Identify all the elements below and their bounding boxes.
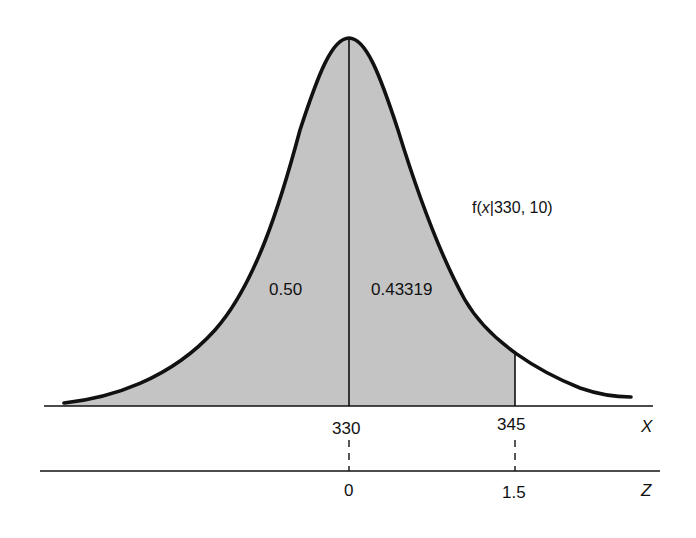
area-right-label: 0.43319 — [371, 281, 432, 298]
normal-curve-figure — [0, 0, 696, 538]
curve-label: f(x|330, 10) — [472, 200, 553, 216]
curve-label-suffix: |330, 10) — [490, 199, 553, 216]
z-tick-1-5: 1.5 — [502, 484, 526, 501]
x-tick-345: 345 — [497, 416, 525, 433]
curve-label-prefix: f( — [472, 199, 482, 216]
x-tick-330: 330 — [332, 420, 360, 437]
curve-label-var: x — [482, 199, 490, 216]
x-axis-name: X — [641, 418, 652, 435]
z-tick-0: 0 — [344, 482, 353, 499]
area-left-label: 0.50 — [269, 281, 302, 298]
z-axis-name: Z — [641, 482, 651, 499]
shaded-area — [64, 38, 515, 406]
